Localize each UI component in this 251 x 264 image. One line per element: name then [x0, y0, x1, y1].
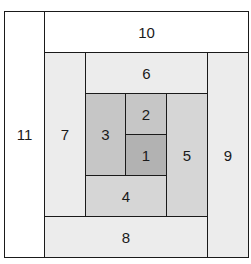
block-11-label: 11: [17, 127, 33, 142]
block-9-label: 9: [224, 148, 232, 163]
block-1-label: 1: [142, 148, 150, 163]
block-6: 6: [85, 52, 208, 94]
block-10-label: 10: [138, 25, 155, 40]
block-7: 7: [44, 52, 86, 217]
block-5-label: 5: [183, 148, 191, 163]
block-8: 8: [44, 216, 208, 258]
block-6-label: 6: [142, 66, 150, 81]
block-4: 4: [85, 175, 167, 217]
block-7-label: 7: [61, 127, 69, 142]
block-11: 11: [4, 11, 45, 258]
block-10: 10: [44, 11, 249, 53]
log-cabin-diagram: 1 2 3 4 5 6 7 8 9 10 11: [0, 0, 251, 264]
block-3: 3: [85, 93, 126, 176]
block-8-label: 8: [122, 230, 130, 245]
block-2-label: 2: [142, 107, 150, 122]
block-1: 1: [125, 134, 167, 176]
block-3-label: 3: [101, 127, 109, 142]
block-9: 9: [207, 52, 249, 258]
block-5: 5: [166, 93, 208, 217]
block-2: 2: [125, 93, 167, 135]
block-4-label: 4: [122, 189, 130, 204]
